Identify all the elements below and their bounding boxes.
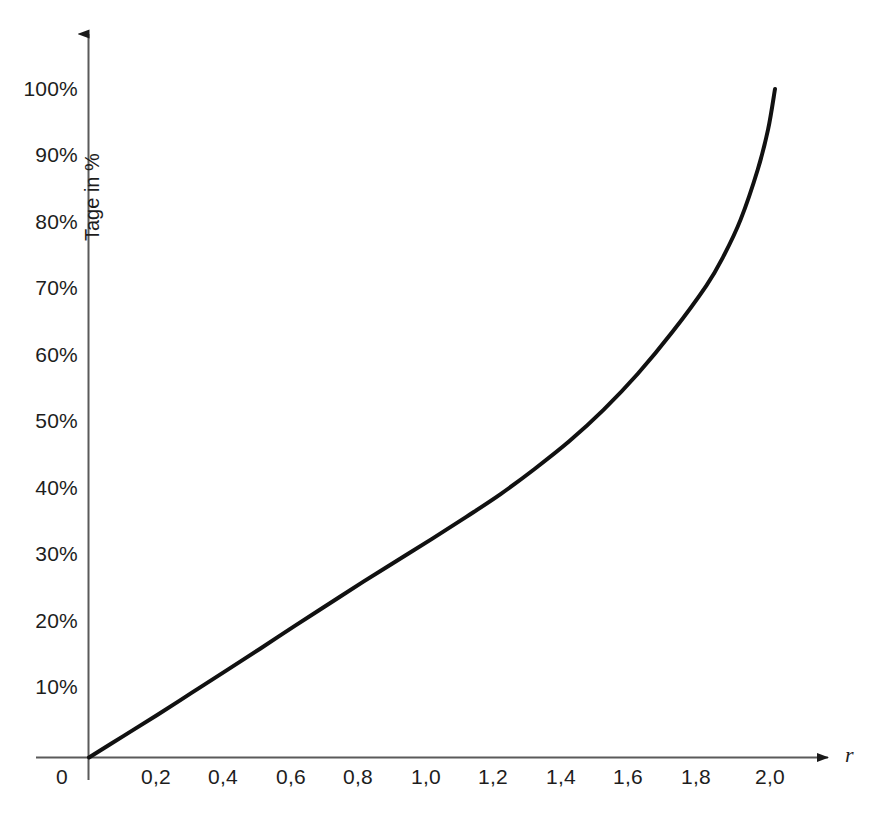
y-tick-label-10: 10% bbox=[4, 675, 78, 699]
y-tick-label-30: 30% bbox=[4, 542, 78, 566]
y-tick-label-40: 40% bbox=[4, 476, 78, 500]
y-axis-title: Tage in % bbox=[81, 153, 104, 241]
y-tick-label-20: 20% bbox=[4, 609, 78, 633]
chart-figure: 100% 90% 80% 70% 60% 50% 40% 30% 20% 10%… bbox=[0, 0, 885, 814]
x-axis-title: r bbox=[845, 742, 854, 768]
x-tick-label-1-8: 1,8 bbox=[656, 765, 736, 789]
y-tick-label-70: 70% bbox=[4, 276, 78, 300]
y-tick-label-60: 60% bbox=[4, 343, 78, 367]
x-tick-label-0: 0 bbox=[22, 765, 102, 789]
data-curve bbox=[89, 89, 775, 758]
x-tick-label-2-0: 2,0 bbox=[730, 765, 810, 789]
plot-canvas bbox=[0, 0, 885, 814]
y-tick-label-50: 50% bbox=[4, 409, 78, 433]
y-tick-label-100: 100% bbox=[4, 77, 78, 101]
y-tick-label-80: 80% bbox=[4, 210, 78, 234]
y-tick-label-90: 90% bbox=[4, 143, 78, 167]
